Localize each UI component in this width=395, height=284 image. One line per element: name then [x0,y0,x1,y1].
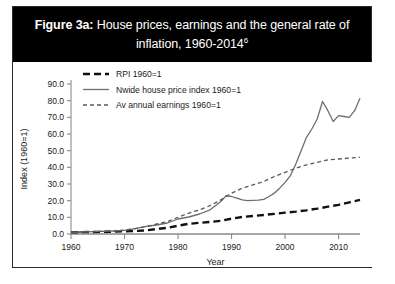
y-axis-title: Index (1960=1) [19,129,29,190]
legend-label-1: Nwide house price index 1960=1 [116,85,241,95]
figure-number-label: Figure 3a: [35,18,94,32]
legend-label-2: Av annual earnings 1960=1 [116,100,221,110]
x-axis-tick-label: 1990 [222,242,241,252]
y-axis-tick-label: 90.0 [47,79,64,89]
x-axis-tick-label: 1980 [169,242,188,252]
figure-title-banner: Figure 3a: House prices, earnings and th… [13,7,371,62]
footnote-marker: 6 [244,36,248,45]
chart-plot-area: 0.010.020.030.040.050.060.070.080.090.01… [13,62,373,267]
series-line-0 [71,200,360,233]
line-chart: 0.010.020.030.040.050.060.070.080.090.01… [13,62,373,267]
y-axis-tick-label: 70.0 [47,112,64,122]
y-axis-tick-label: 60.0 [47,129,64,139]
figure-title-text: House prices, earnings and the general r… [93,18,349,51]
y-axis-tick-label: 20.0 [47,196,64,206]
y-axis-tick-label: 40.0 [47,162,64,172]
x-axis-title: Year [206,257,224,267]
figure-container: Figure 3a: House prices, earnings and th… [12,6,372,268]
page-title: Figure 3a: House prices, earnings and th… [13,17,371,52]
series-line-1 [71,98,360,232]
y-axis-tick-label: 10.0 [47,212,64,222]
y-axis-tick-label: 30.0 [47,179,64,189]
x-axis-tick-label: 1970 [115,242,134,252]
y-axis-tick-label: 0.0 [52,229,64,239]
legend-label-0: RPI 1960=1 [116,69,162,79]
y-axis-tick-label: 80.0 [47,96,64,106]
y-axis-tick-label: 50.0 [47,146,64,156]
x-axis-tick-label: 1960 [62,242,81,252]
x-axis-tick-label: 2010 [329,242,348,252]
x-axis-tick-label: 2000 [276,242,295,252]
